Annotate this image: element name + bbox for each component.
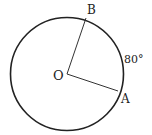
point-a-label: A (120, 92, 130, 106)
circle-diagram: O B A 80° (0, 0, 152, 135)
radius-oa (67, 74, 118, 91)
center-label: O (53, 68, 64, 83)
radius-ob (67, 18, 86, 74)
arc-measure-label: 80° (124, 53, 144, 66)
point-b-label: B (87, 3, 96, 17)
